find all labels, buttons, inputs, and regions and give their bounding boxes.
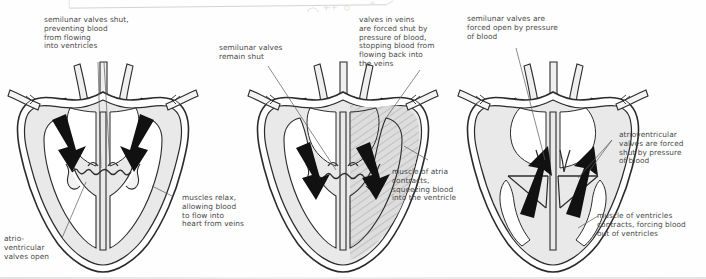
label-semilunar-open: semilunar valves are forced open by pres… — [467, 15, 558, 41]
label-ventricles-contract: muscle of ventricles contracts, forcing … — [597, 212, 686, 238]
diagram-stage: semilunar valves shut, preventing blood … — [0, 0, 706, 279]
label-av-shut: atrioventricular valves are forced shut … — [619, 131, 684, 166]
